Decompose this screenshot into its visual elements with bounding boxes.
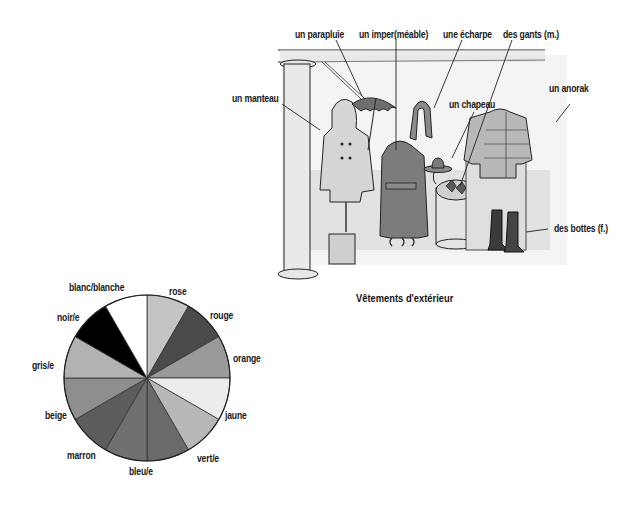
label-gants: des gants (m.) [503,28,559,40]
label-blanc: blanc/blanche [69,281,124,293]
label-beige: beige [45,409,67,421]
label-rose: rose [169,285,187,297]
label-bleu: bleu/e [129,465,153,477]
label-orange: orange [233,352,261,364]
label-jaune: jaune [225,409,247,421]
label-anorak: un anorak [549,82,589,94]
label-impermeable: un imper(méable) [359,28,428,40]
label-gris: gris/e [32,359,54,371]
label-echarpe: une écharpe [443,28,492,40]
label-chapeau: un chapeau [449,98,495,110]
impermeable-figure [380,141,428,246]
label-bottes: des bottes (f.) [554,222,608,234]
label-manteau: un manteau [232,92,279,104]
label-rouge: rouge [210,309,233,321]
outerwear-illustration [0,0,637,505]
color-wheel [64,295,230,461]
label-marron: marron [67,449,96,461]
illustration-caption: Vêtements d'extérieur [356,292,453,304]
label-vert: vert/e [197,452,219,464]
label-noir: noir/e [57,311,79,323]
label-parapluie: un parapluie [295,28,344,40]
